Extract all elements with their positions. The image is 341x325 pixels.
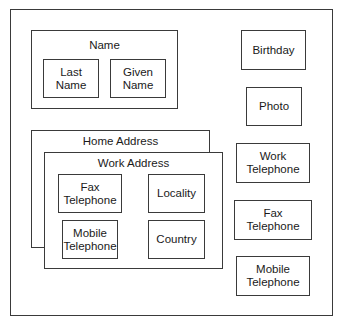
work-fax-telephone-label: Fax Telephone [62,181,118,207]
work-telephone-box: Work Telephone [236,143,310,183]
birthday-box: Birthday [241,30,306,70]
locality-label: Locality [157,187,196,200]
photo-label: Photo [259,100,289,113]
birthday-label: Birthday [252,44,294,57]
last-name-box: Last Name [43,59,99,98]
country-box: Country [148,220,205,259]
work-telephone-label: Work Telephone [242,150,304,176]
photo-box: Photo [246,87,302,126]
fax-telephone-box: Fax Telephone [234,200,312,240]
last-name-label: Last Name [51,66,91,92]
work-mobile-telephone-label: Mobile Telephone [63,227,117,253]
given-name-label: Given Name [116,66,160,92]
fax-telephone-label: Fax Telephone [242,207,304,233]
work-mobile-telephone-box: Mobile Telephone [62,220,118,259]
home-address-label: Home Address [32,135,209,148]
given-name-box: Given Name [110,59,166,98]
name-group-label: Name [32,39,177,52]
locality-box: Locality [148,174,205,213]
mobile-telephone-label: Mobile Telephone [242,263,304,289]
work-address-label: Work Address [45,157,222,170]
mobile-telephone-box: Mobile Telephone [236,256,310,296]
work-fax-telephone-box: Fax Telephone [58,174,122,213]
country-label: Country [156,233,196,246]
